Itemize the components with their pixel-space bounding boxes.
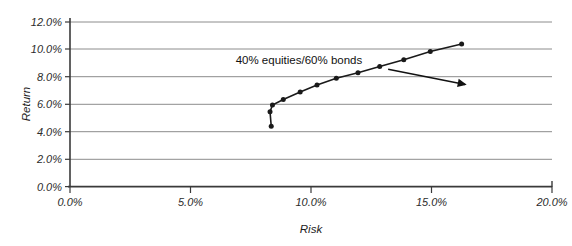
data-point-marker <box>270 102 275 107</box>
data-point-marker <box>269 124 274 129</box>
y-tick-label: 2.0% <box>36 153 62 165</box>
data-point-marker <box>298 89 303 94</box>
y-tick-label: 12.0% <box>31 16 62 28</box>
data-point-marker <box>459 41 464 46</box>
x-axis-ticks <box>70 187 552 193</box>
data-point-marker <box>281 97 286 102</box>
data-point-marker <box>401 57 406 62</box>
annotation-label: 40% equities/60% bonds <box>236 54 363 66</box>
y-tick-label: 8.0% <box>37 71 62 83</box>
x-tick-label: 5.0% <box>178 196 203 208</box>
y-tick-label: 10.0% <box>31 43 62 55</box>
axis-lines <box>68 18 552 187</box>
data-point-marker <box>428 49 433 54</box>
y-tick-label: 0.0% <box>37 181 62 193</box>
y-tick-label: 6.0% <box>37 98 62 110</box>
data-point-marker <box>334 76 339 81</box>
data-point-marker <box>377 64 382 69</box>
annotation-arrow-head <box>457 79 467 87</box>
chart-canvas: 12.0% 10.0% 8.0% 6.0% 4.0% 2.0% 0.0% 0.0… <box>0 0 572 246</box>
data-point-marker <box>355 70 360 75</box>
x-tick-label: 15.0% <box>416 196 447 208</box>
x-tick-label: 0.0% <box>57 196 82 208</box>
x-tick-label: 20.0% <box>535 196 567 208</box>
data-point-marker <box>315 83 320 88</box>
annotation-arrow <box>388 69 467 87</box>
y-tick-label: 4.0% <box>37 126 62 138</box>
x-axis-tick-labels: 0.0% 5.0% 10.0% 15.0% 20.0% <box>57 196 567 208</box>
x-axis-title: Risk <box>300 223 324 235</box>
data-point-marker <box>268 109 273 114</box>
x-tick-label: 10.0% <box>295 196 326 208</box>
y-axis-tick-labels: 12.0% 10.0% 8.0% 6.0% 4.0% 2.0% 0.0% <box>31 16 62 193</box>
efficient-frontier-chart: 12.0% 10.0% 8.0% 6.0% 4.0% 2.0% 0.0% 0.0… <box>0 0 572 246</box>
gridlines-horizontal <box>70 22 552 159</box>
y-axis-title: Return <box>20 87 32 122</box>
